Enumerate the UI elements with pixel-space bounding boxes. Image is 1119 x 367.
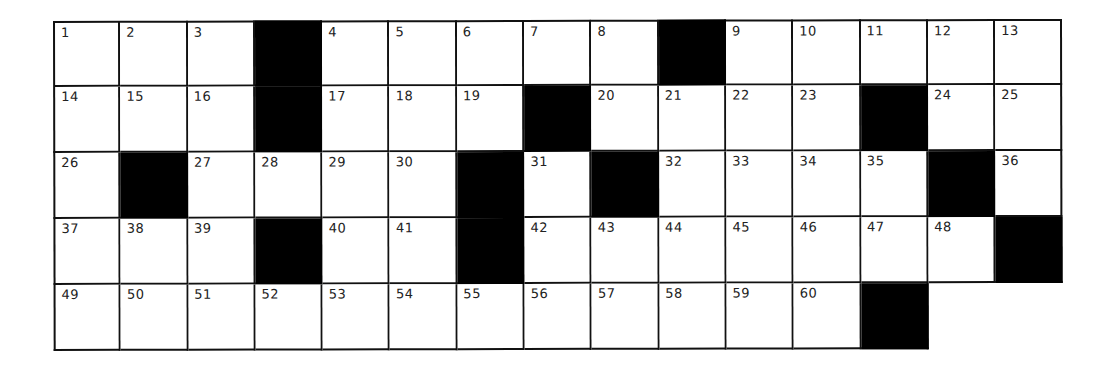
crossword-cell[interactable]: 6 (457, 20, 524, 86)
clue-number: 36 (1001, 154, 1019, 167)
clue-number: 22 (732, 89, 750, 102)
crossword-cell[interactable]: 51 (188, 285, 255, 351)
clue-number: 21 (665, 89, 683, 102)
clue-number: 56 (531, 287, 549, 300)
clue-number: 30 (396, 155, 414, 168)
black-square (255, 218, 322, 284)
clue-number: 46 (800, 220, 818, 233)
crossword-cell[interactable]: 31 (524, 152, 591, 218)
clue-number: 41 (396, 221, 414, 234)
clue-number: 4 (328, 25, 337, 38)
crossword-cell[interactable]: 18 (390, 86, 457, 152)
crossword-cell[interactable]: 35 (861, 151, 928, 217)
clue-number: 15 (126, 90, 144, 103)
crossword-cell[interactable]: 47 (861, 217, 928, 283)
crossword-cell[interactable]: 10 (793, 19, 860, 85)
crossword-cell[interactable]: 36 (995, 151, 1062, 217)
crossword-cell[interactable]: 56 (525, 284, 592, 350)
clue-number: 54 (396, 287, 414, 300)
crossword-cell[interactable]: 57 (592, 284, 659, 350)
clue-number: 9 (732, 25, 741, 38)
clue-number: 35 (867, 154, 885, 167)
black-square (861, 283, 928, 349)
crossword-cell[interactable]: 46 (794, 217, 861, 283)
clue-number: 24 (934, 88, 952, 101)
crossword-cell[interactable]: 33 (726, 151, 793, 217)
crossword-cell[interactable]: 37 (53, 219, 120, 285)
crossword-cell[interactable]: 26 (53, 153, 120, 219)
grid-void (996, 283, 1063, 349)
crossword-cell[interactable]: 16 (188, 87, 255, 153)
crossword-cell[interactable]: 55 (457, 284, 524, 350)
crossword-cell[interactable]: 14 (53, 87, 120, 153)
clue-number: 51 (194, 288, 212, 301)
crossword-cell[interactable]: 9 (726, 19, 793, 85)
clue-number: 37 (61, 222, 79, 235)
clue-number: 16 (194, 90, 212, 103)
clue-number: 6 (463, 25, 472, 38)
crossword-cell[interactable]: 30 (390, 152, 457, 218)
crossword-cell[interactable]: 28 (255, 152, 322, 218)
clue-number: 10 (799, 24, 817, 37)
crossword-cell[interactable]: 19 (457, 86, 524, 152)
black-square (996, 217, 1063, 283)
clue-number: 32 (665, 155, 683, 168)
crossword-cell[interactable]: 13 (995, 19, 1062, 85)
crossword-cell[interactable]: 22 (726, 85, 793, 151)
crossword-cell[interactable]: 25 (995, 85, 1062, 151)
crossword-cell[interactable]: 8 (591, 20, 658, 86)
crossword-cell[interactable]: 11 (861, 19, 928, 85)
crossword-cell[interactable]: 29 (322, 152, 389, 218)
crossword-cell[interactable]: 40 (323, 218, 390, 284)
crossword-cell[interactable]: 53 (323, 284, 390, 350)
crossword-cell[interactable]: 59 (727, 283, 794, 349)
black-square (457, 152, 524, 218)
clue-number: 57 (598, 287, 616, 300)
crossword-cell[interactable]: 7 (524, 20, 591, 86)
crossword-cell[interactable]: 54 (390, 284, 457, 350)
crossword-cell[interactable]: 48 (928, 217, 995, 283)
crossword-cell[interactable]: 32 (659, 152, 726, 218)
clue-number: 34 (800, 154, 818, 167)
crossword-cell[interactable]: 39 (188, 219, 255, 285)
clue-number: 52 (261, 288, 279, 301)
crossword-cell[interactable]: 27 (188, 153, 255, 219)
clue-number: 18 (396, 89, 414, 102)
crossword-cell[interactable]: 60 (794, 283, 861, 349)
crossword-cell[interactable]: 24 (928, 85, 995, 151)
crossword-cell[interactable]: 21 (659, 86, 726, 152)
crossword-cell[interactable]: 17 (322, 86, 389, 152)
crossword-cell[interactable]: 58 (659, 284, 726, 350)
crossword-cell[interactable]: 34 (794, 151, 861, 217)
clue-number: 13 (1001, 24, 1019, 37)
crossword-cell[interactable]: 52 (255, 284, 322, 350)
crossword-cell[interactable]: 44 (659, 218, 726, 284)
crossword-cell[interactable]: 23 (793, 85, 860, 151)
clue-number: 3 (194, 26, 203, 39)
crossword-cell[interactable]: 38 (121, 219, 188, 285)
clue-number: 59 (733, 287, 751, 300)
crossword-cell[interactable]: 12 (928, 19, 995, 85)
clue-number: 11 (867, 24, 885, 37)
crossword-cell[interactable]: 5 (389, 20, 456, 86)
crossword-cell[interactable]: 15 (120, 87, 187, 153)
crossword-cell[interactable]: 50 (121, 285, 188, 351)
crossword-cell[interactable]: 49 (54, 285, 121, 351)
clue-number: 38 (127, 222, 145, 235)
clue-number: 12 (934, 24, 952, 37)
crossword-cell[interactable]: 3 (188, 21, 255, 87)
crossword-cell[interactable]: 41 (390, 218, 457, 284)
crossword-cell[interactable]: 4 (322, 20, 389, 86)
crossword-cell[interactable]: 20 (592, 86, 659, 152)
clue-number: 53 (329, 287, 347, 300)
crossword-cell[interactable]: 45 (726, 217, 793, 283)
crossword-cell[interactable]: 43 (592, 218, 659, 284)
clue-number: 60 (800, 286, 818, 299)
crossword-cell[interactable]: 42 (524, 218, 591, 284)
black-square (255, 20, 322, 86)
crossword-cell[interactable]: 1 (53, 21, 120, 87)
crossword-cell[interactable]: 2 (120, 21, 187, 87)
clue-number: 47 (867, 220, 885, 233)
clue-number: 29 (328, 155, 346, 168)
black-square (457, 218, 524, 284)
